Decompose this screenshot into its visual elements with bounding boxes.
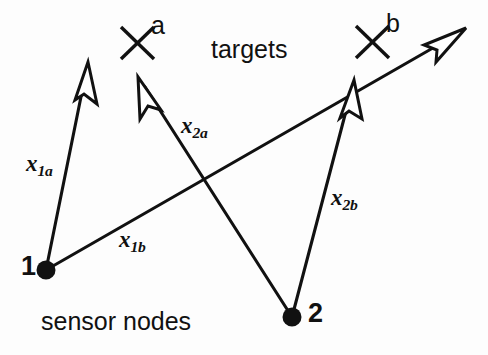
arrowhead-x2a xyxy=(138,77,161,119)
vector-label-x1b-base: x xyxy=(119,227,131,252)
vector-label-x1b-sub: 1b xyxy=(131,238,146,255)
vector-label-x2a-base: x xyxy=(181,113,193,138)
target-label-a: a xyxy=(151,13,165,38)
sensor-node-dot-1[interactable] xyxy=(37,261,56,280)
arrowhead-x1b xyxy=(424,28,466,62)
target-marker-a xyxy=(121,27,154,59)
caption-targets: targets xyxy=(211,37,287,62)
figure-canvas: a b targets sensor nodes 1 2 x1a x1b x2a… xyxy=(0,0,488,355)
vector-label-x2b: x2b xyxy=(331,186,358,213)
target-marker-b xyxy=(356,26,389,58)
vector-label-x1b: x1b xyxy=(119,228,146,255)
vector-label-x1a-sub: 1a xyxy=(38,162,53,179)
vector-label-x1a-base: x xyxy=(26,151,38,176)
vector-label-x2a: x2a xyxy=(181,114,208,141)
vector-shaft-x1b xyxy=(46,33,459,270)
arrowhead-x1a xyxy=(75,62,97,104)
vector-label-x2b-sub: 2b xyxy=(343,196,358,213)
vector-label-x1a: x1a xyxy=(26,152,53,179)
vector-label-x2a-sub: 2a xyxy=(193,124,208,141)
sensor-node-dot-2[interactable] xyxy=(283,308,302,327)
target-label-b: b xyxy=(386,11,400,36)
sensor-node-label-1: 1 xyxy=(21,253,36,280)
caption-sensor-nodes: sensor nodes xyxy=(41,309,191,334)
vector-label-x2b-base: x xyxy=(331,185,343,210)
sensor-node-label-2: 2 xyxy=(308,300,323,327)
